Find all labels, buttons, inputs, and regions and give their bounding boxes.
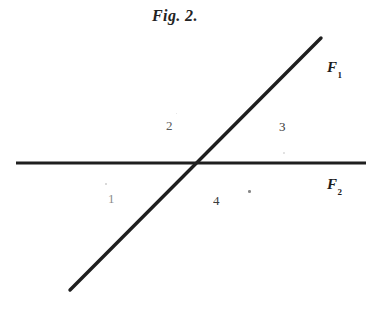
region-label-1: 1 bbox=[108, 192, 115, 205]
line-label-f1: F1 bbox=[327, 60, 342, 78]
region-label-3: 3 bbox=[279, 120, 286, 133]
line-label-f1-letter: F bbox=[327, 59, 337, 75]
region-label-4: 4 bbox=[213, 194, 220, 207]
scan-speck-1 bbox=[105, 183, 107, 185]
scan-speck-3 bbox=[283, 152, 285, 154]
figure-caption: Fig. 2. bbox=[152, 8, 198, 24]
scan-speck-2 bbox=[248, 190, 251, 193]
line-label-f2-subscript: 2 bbox=[338, 187, 343, 197]
line-label-f2-letter: F bbox=[327, 176, 337, 192]
diagram-canvas bbox=[0, 0, 388, 311]
line-label-f1-subscript: 1 bbox=[338, 70, 343, 80]
figure-container: Fig. 2. F1 F2 1 2 3 4 bbox=[0, 0, 388, 311]
region-label-2: 2 bbox=[166, 119, 173, 132]
line-label-f2: F2 bbox=[327, 177, 342, 195]
